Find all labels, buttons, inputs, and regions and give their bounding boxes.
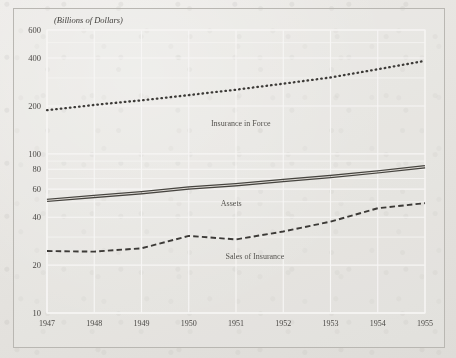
x-tick-label: 1947 (39, 319, 55, 328)
y-tick-label: 200 (28, 101, 41, 111)
y-tick-label: 80 (33, 164, 42, 174)
x-axis-tick-labels: 194719481949195019511952195319541955 (39, 319, 433, 328)
series-label: Insurance in Force (211, 119, 271, 128)
chart-svg: 6004002001008060402010 19471948194919501… (0, 0, 456, 358)
x-tick-label: 1948 (86, 319, 102, 328)
x-tick-label: 1951 (228, 319, 244, 328)
y-tick-label: 100 (28, 149, 41, 159)
x-tick-label: 1952 (275, 319, 291, 328)
y-tick-label: 20 (33, 260, 42, 270)
x-tick-label: 1955 (417, 319, 433, 328)
x-tick-label: 1949 (134, 319, 150, 328)
y-tick-label: 10 (33, 308, 42, 318)
chart-unit-note: (Billions of Dollars) (54, 15, 123, 25)
y-axis-tick-labels: 6004002001008060402010 (28, 25, 41, 318)
series-label: Assets (221, 199, 242, 208)
x-tick-label: 1953 (323, 319, 339, 328)
chart-figure: 6004002001008060402010 19471948194919501… (0, 0, 456, 358)
y-tick-label: 600 (28, 25, 41, 35)
series-label: Sales of Insurance (226, 252, 285, 261)
x-tick-label: 1950 (181, 319, 197, 328)
y-tick-label: 400 (28, 53, 41, 63)
y-tick-label: 40 (33, 212, 42, 222)
x-tick-label: 1954 (370, 319, 386, 328)
y-tick-label: 60 (33, 184, 42, 194)
